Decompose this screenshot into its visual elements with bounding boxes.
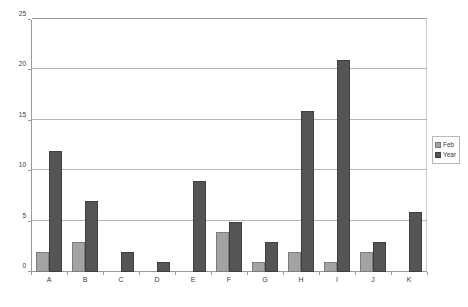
- bar-feb-G[interactable]: [252, 262, 265, 272]
- x-tick-label-E: E: [175, 275, 211, 295]
- bar-year-B[interactable]: [85, 201, 98, 272]
- bar-feb-H[interactable]: [288, 252, 301, 272]
- bar-feb-F[interactable]: [216, 232, 229, 272]
- y-axis: 0510152025: [0, 20, 31, 272]
- bar-group-K: [391, 20, 427, 272]
- bar-group-D: [139, 20, 175, 272]
- bar-group-C: [103, 20, 139, 272]
- bar-feb-B[interactable]: [72, 242, 85, 272]
- x-tick-mark-11: [427, 272, 428, 275]
- bar-year-J[interactable]: [373, 242, 386, 272]
- legend-entry-year[interactable]: Year: [435, 150, 456, 160]
- bar-group-G: [247, 20, 283, 272]
- bar-feb-A[interactable]: [36, 252, 49, 272]
- bars-layer: [31, 20, 427, 272]
- bar-year-A[interactable]: [49, 151, 62, 272]
- x-tick-label-A: A: [31, 275, 67, 295]
- bar-group-E: [175, 20, 211, 272]
- y-tick-label-25: 25: [2, 10, 26, 17]
- bar-feb-J[interactable]: [360, 252, 373, 272]
- x-tick-label-F: F: [211, 275, 247, 295]
- chart-legend: FebYear: [432, 136, 460, 164]
- legend-entry-feb[interactable]: Feb: [435, 140, 456, 150]
- x-tick-label-K: K: [391, 275, 427, 295]
- bar-year-F[interactable]: [229, 222, 242, 272]
- bar-year-C[interactable]: [121, 252, 134, 272]
- bar-group-H: [283, 20, 319, 272]
- x-tick-label-J: J: [355, 275, 391, 295]
- y-tick-label-5: 5: [2, 211, 26, 218]
- bar-year-H[interactable]: [301, 111, 314, 272]
- y-tick-label-0: 0: [2, 262, 26, 269]
- bar-year-G[interactable]: [265, 242, 278, 272]
- bar-year-E[interactable]: [193, 181, 206, 272]
- legend-label-year: Year: [443, 151, 456, 159]
- y-tick-label-15: 15: [2, 110, 26, 117]
- y-tick-label-20: 20: [2, 60, 26, 67]
- y-tick-label-10: 10: [2, 161, 26, 168]
- bar-group-F: [211, 20, 247, 272]
- gridline-25: [32, 18, 427, 19]
- bar-chart: 0510152025 ABCDEFGHIJK FebYear: [0, 0, 468, 307]
- x-tick-label-H: H: [283, 275, 319, 295]
- x-tick-label-B: B: [67, 275, 103, 295]
- x-axis: ABCDEFGHIJK: [31, 275, 427, 295]
- x-tick-label-I: I: [319, 275, 355, 295]
- legend-swatch-feb-icon: [435, 142, 441, 148]
- bar-group-I: [319, 20, 355, 272]
- legend-label-feb: Feb: [443, 141, 454, 149]
- bar-group-J: [355, 20, 391, 272]
- bar-year-K[interactable]: [409, 212, 422, 272]
- x-tick-label-D: D: [139, 275, 175, 295]
- bar-year-I[interactable]: [337, 60, 350, 272]
- x-tick-label-G: G: [247, 275, 283, 295]
- legend-swatch-year-icon: [435, 152, 441, 158]
- bar-group-A: [31, 20, 67, 272]
- bar-group-B: [67, 20, 103, 272]
- bar-feb-I[interactable]: [324, 262, 337, 272]
- x-tick-label-C: C: [103, 275, 139, 295]
- bar-year-D[interactable]: [157, 262, 170, 272]
